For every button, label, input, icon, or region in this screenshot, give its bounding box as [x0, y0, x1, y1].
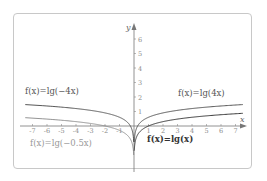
x-tick-label: -7 — [29, 127, 35, 135]
x-tick-label: -6 — [44, 127, 50, 135]
x-tick-label: 5 — [204, 127, 208, 135]
y-axis-label: y — [125, 23, 131, 32]
y-tick-label: 3 — [138, 79, 142, 87]
y-tick-label: 6 — [138, 36, 142, 44]
y-tick-label: 5 — [138, 50, 142, 58]
y-tick-label: 4 — [138, 65, 142, 73]
curve-0 — [25, 105, 133, 142]
label-lg-x: f(x)=lg(x) — [147, 134, 193, 144]
x-tick-label: -3 — [87, 127, 93, 135]
label-lg-neg4x: f(x)=lg(−4x) — [25, 86, 79, 96]
x-tick-label: 7 — [233, 127, 237, 135]
x-axis-arrow-icon — [240, 124, 247, 129]
y-axis-arrow-icon — [132, 23, 137, 30]
curve-1 — [25, 118, 133, 155]
x-tick-label: -4 — [73, 127, 79, 135]
x-tick-label: -2 — [102, 127, 108, 135]
y-tick-label: 2 — [138, 94, 142, 102]
x-tick-label: -5 — [58, 127, 64, 135]
x-axis-label: x — [240, 115, 245, 124]
x-tick-label: 6 — [219, 127, 223, 135]
label-lg-neg05x: f(x)=lg(−0.5x) — [30, 138, 92, 148]
y-tick-label: 1 — [138, 108, 142, 116]
label-lg-4x: f(x)=lg(4x) — [178, 88, 225, 98]
